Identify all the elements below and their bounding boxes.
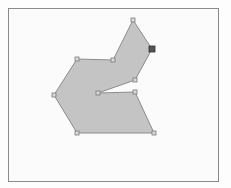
vertex-handle[interactable] xyxy=(152,131,156,135)
vertex-handle[interactable] xyxy=(111,58,115,62)
vertex-handle[interactable] xyxy=(133,78,137,82)
vertex-handle[interactable] xyxy=(52,93,56,97)
vertex-handle[interactable] xyxy=(133,90,137,94)
drawing-stage xyxy=(0,0,231,188)
polygon-canvas[interactable] xyxy=(0,0,231,188)
vertex-handle[interactable] xyxy=(75,131,79,135)
vertex-handle-selected[interactable] xyxy=(149,46,155,52)
vertex-handle[interactable] xyxy=(131,18,135,22)
vertex-handle[interactable] xyxy=(96,91,100,95)
vertex-handle[interactable] xyxy=(75,57,79,61)
polygon-shape[interactable] xyxy=(54,20,154,133)
